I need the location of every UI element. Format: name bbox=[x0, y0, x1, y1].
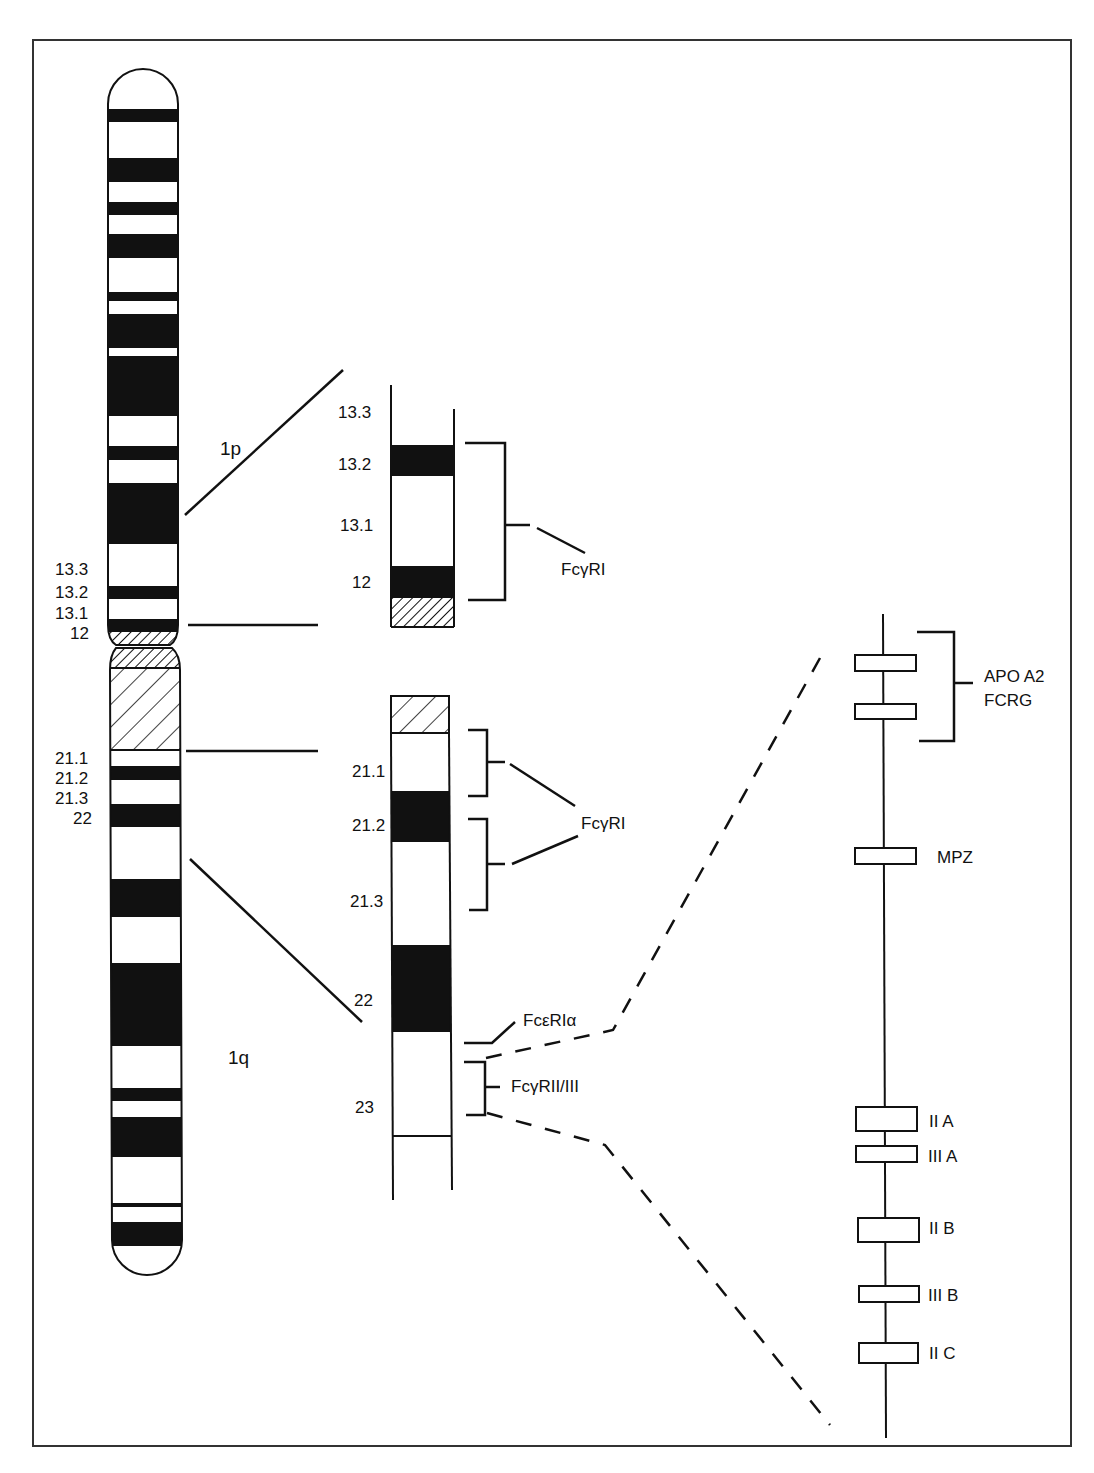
gene-label-fceri: FcεRIα bbox=[523, 1011, 576, 1030]
band-label: 21.1 bbox=[352, 762, 385, 781]
band-label: 13.3 bbox=[55, 560, 88, 579]
gene-label-fcgri-q: FcγRI bbox=[581, 814, 625, 833]
gene-label-iic: II C bbox=[929, 1344, 955, 1363]
band-label: 13.2 bbox=[55, 583, 88, 602]
gene-label-fcgrii: FcγRII/III bbox=[511, 1077, 579, 1096]
gene-map-labels: MPZ II A III A II B III B II C bbox=[928, 848, 973, 1363]
band-label: 13.3 bbox=[338, 403, 371, 422]
q-expansion-band-labels: 21.1 21.2 21.3 22 23 bbox=[350, 762, 385, 1117]
arm-label-p: 1p bbox=[220, 438, 241, 459]
band-label: 21.3 bbox=[350, 892, 383, 911]
q-expansion-band bbox=[391, 696, 452, 1200]
ideogram-q-band-labels: 21.1 21.2 21.3 22 bbox=[55, 749, 92, 828]
band-label: 22 bbox=[73, 809, 92, 828]
gene-label-iiia: III A bbox=[928, 1147, 958, 1166]
band-label: 23 bbox=[355, 1098, 374, 1117]
gene-cluster-label-fcrg: FCRG bbox=[984, 691, 1032, 710]
ideogram-p-band-labels: 13.3 13.2 13.1 12 bbox=[55, 560, 89, 643]
gene-map-boxes bbox=[855, 655, 919, 1363]
band-label: 13.1 bbox=[340, 516, 373, 535]
band-label: 13.1 bbox=[55, 604, 88, 623]
band-label: 21.3 bbox=[55, 789, 88, 808]
gene-label-fcgri-p: FcγRI bbox=[561, 560, 605, 579]
band-label: 22 bbox=[354, 991, 373, 1010]
band-label: 21.1 bbox=[55, 749, 88, 768]
apo-fcrg-bracket bbox=[917, 632, 973, 741]
band-label: 12 bbox=[70, 624, 89, 643]
gene-label-mpz: MPZ bbox=[937, 848, 973, 867]
ideogram-p-arm bbox=[100, 60, 190, 660]
gene-label-iib: II B bbox=[929, 1219, 955, 1238]
fcgri-q-brackets bbox=[468, 730, 578, 910]
ideogram-q-arm bbox=[100, 640, 190, 1280]
p-expansion-band-labels: 13.3 13.2 13.1 12 bbox=[338, 403, 373, 592]
band-label: 12 bbox=[352, 573, 371, 592]
expansion-dashed-lines bbox=[486, 658, 830, 1425]
gene-label-iia: II A bbox=[929, 1112, 954, 1131]
gene-map-axis bbox=[883, 614, 886, 1438]
fcgrii-bracket bbox=[464, 1062, 500, 1115]
band-label: 13.2 bbox=[338, 455, 371, 474]
projection-lines bbox=[185, 370, 362, 1022]
band-label: 21.2 bbox=[55, 769, 88, 788]
fceri-pointer bbox=[464, 1022, 515, 1043]
p-expansion-band bbox=[391, 385, 454, 627]
chromosome-diagram: 13.3 13.2 13.1 12 21.1 21.2 21.3 22 1p 1… bbox=[0, 0, 1094, 1473]
gene-label-iiib: III B bbox=[928, 1286, 958, 1305]
arm-label-q: 1q bbox=[228, 1047, 249, 1068]
band-label: 21.2 bbox=[352, 816, 385, 835]
gene-cluster-label-apoa2: APO A2 bbox=[984, 667, 1044, 686]
